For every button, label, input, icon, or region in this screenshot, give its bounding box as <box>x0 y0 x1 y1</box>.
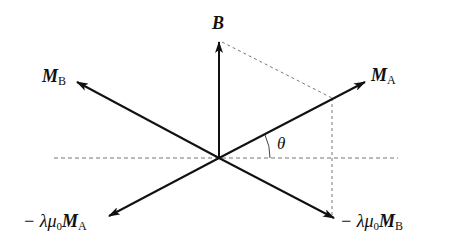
label-MA: MA <box>371 66 396 84</box>
label-theta: θ <box>277 135 285 152</box>
label-neg-MA-main: M <box>62 211 78 231</box>
label-neg-MA: − λμ0MA <box>23 212 87 230</box>
label-neg-MB-prefix: − λμ <box>340 211 373 231</box>
vector-MB <box>77 82 219 158</box>
label-neg-MB: − λμ0MB <box>340 212 403 230</box>
theta-arc <box>265 135 270 158</box>
label-MA-sub: A <box>387 73 396 87</box>
vector-neg-MB <box>219 158 334 218</box>
label-neg-MB-zero: 0 <box>373 220 379 232</box>
label-MB: MB <box>42 67 66 85</box>
label-neg-MB-sub: B <box>395 219 403 233</box>
label-B-text: B <box>212 13 224 33</box>
vector-neg-MA <box>109 158 219 216</box>
label-neg-MA-prefix: − λμ <box>23 211 56 231</box>
label-MB-sub: B <box>58 74 66 88</box>
label-B: B <box>212 14 224 32</box>
label-neg-MA-zero: 0 <box>56 220 62 232</box>
label-neg-MB-main: M <box>379 211 395 231</box>
label-MA-main: M <box>371 65 387 85</box>
label-neg-MA-sub: A <box>78 219 87 233</box>
label-MB-main: M <box>42 66 58 86</box>
vector-MA <box>219 82 365 158</box>
projection-dashed-diagonal <box>222 42 332 98</box>
